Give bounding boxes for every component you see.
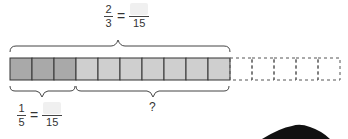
shaded-cell-light bbox=[164, 58, 186, 80]
answer-blank[interactable] bbox=[43, 102, 61, 114]
bottom-right-brace bbox=[76, 86, 229, 97]
shaded-cell-dark bbox=[54, 58, 76, 80]
shaded-cell-light bbox=[186, 58, 208, 80]
dashed-empty-cell bbox=[296, 58, 318, 80]
bottom-left-fraction-equation: 1 5 = 15 bbox=[17, 102, 62, 128]
unknown-question-mark: ? bbox=[149, 100, 156, 114]
shaded-cell-dark bbox=[32, 58, 54, 80]
decorative-black-shape bbox=[262, 125, 330, 139]
top-brace bbox=[10, 40, 230, 52]
bottom-left-brace bbox=[10, 86, 75, 97]
dashed-empty-cell bbox=[318, 58, 340, 80]
shaded-cell-dark bbox=[10, 58, 32, 80]
shaded-cell-light bbox=[208, 58, 230, 80]
numerator: 1 bbox=[18, 103, 24, 114]
shaded-cell-light bbox=[120, 58, 142, 80]
dashed-empty-cell bbox=[274, 58, 296, 80]
denominator: 5 bbox=[18, 117, 24, 128]
shaded-cell-light bbox=[76, 58, 98, 80]
dashed-empty-cell bbox=[230, 58, 252, 80]
denominator: 15 bbox=[46, 117, 58, 128]
shaded-cell-light bbox=[98, 58, 120, 80]
fraction-unknown-fifteenths: 15 bbox=[42, 102, 62, 128]
dashed-empty-cell bbox=[252, 58, 274, 80]
shaded-cell-light bbox=[142, 58, 164, 80]
equals-sign: = bbox=[30, 107, 38, 123]
fraction-one-fifth: 1 5 bbox=[17, 103, 26, 128]
